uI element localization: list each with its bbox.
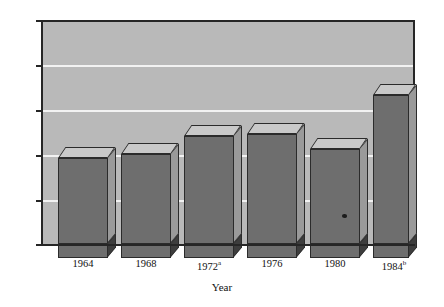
gridline-40 [43,65,413,67]
bar-1972[interactable] [184,136,234,244]
bar-side-face [107,147,116,244]
xtick-label-1976: 1976 [242,258,302,269]
bar-front-face [310,149,360,244]
x-axis-baseline [41,244,415,246]
bar-depth-front [373,244,409,258]
bar-depth-front [184,244,234,258]
bar-depth-front [121,244,171,258]
bar-front-face [121,154,171,244]
bar-1976[interactable] [247,134,297,244]
bar-chart: 50 40 30 20 10 0 [0,0,444,307]
bar-1964[interactable] [58,158,108,244]
bar-side-face [296,123,305,244]
bar-side-face [233,125,242,244]
bar-depth-front [310,244,360,258]
bar-1968[interactable] [121,154,171,244]
bar-front-face [58,158,108,244]
bar-side-face [359,138,368,244]
xtick-label-1972: 1972a [179,258,239,272]
xtick-label-1984: 1984b [364,258,424,272]
gridline-30 [43,110,413,112]
xtick-label-1964: 1964 [53,258,113,269]
speck-marker [342,214,347,218]
bar-depth-front [58,244,108,258]
x-axis-title: Year [0,281,444,293]
bar-side-face [408,84,417,244]
ytick-mark-40 [36,65,41,67]
ytick-mark-10 [36,200,41,202]
bar-side-face [170,143,179,244]
bar-front-face [247,134,297,244]
bar-depth-front [247,244,297,258]
ytick-mark-50 [36,20,41,22]
bar-front-face [373,95,409,244]
ytick-mark-20 [36,155,41,157]
ytick-mark-30 [36,110,41,112]
xtick-label-1980: 1980 [305,258,365,269]
bar-1984[interactable] [373,95,409,244]
bar-front-face [184,136,234,244]
xtick-label-1968: 1968 [116,258,176,269]
bar-1980[interactable] [310,149,360,244]
